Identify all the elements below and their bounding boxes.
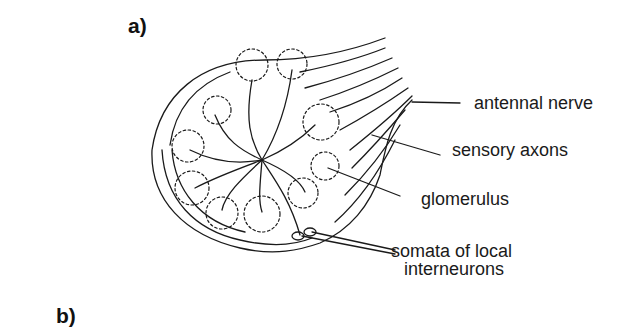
label-antennal-nerve: antennal nerve bbox=[474, 94, 593, 113]
label-sensory-axons: sensory axons bbox=[452, 141, 568, 160]
label-glomerulus: glomerulus bbox=[421, 190, 509, 209]
antennal-lobe-drawing bbox=[0, 0, 643, 329]
label-interneurons: interneurons bbox=[404, 260, 504, 279]
